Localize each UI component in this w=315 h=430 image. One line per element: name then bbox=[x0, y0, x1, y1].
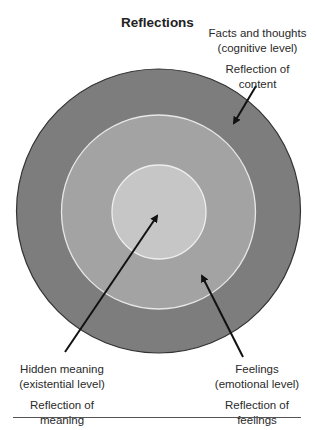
label-outer-line1: Facts and thoughts bbox=[200, 26, 315, 41]
inner-circle-existential bbox=[112, 165, 206, 259]
label-middle-line2: (emotional level) bbox=[199, 377, 315, 392]
label-inner-line1: Hidden meaning bbox=[6, 362, 118, 377]
label-inner-reflection2: meaning bbox=[6, 413, 118, 428]
label-inner-reflection1: Reflection of bbox=[6, 398, 118, 413]
label-inner-line2: (existential level) bbox=[6, 377, 118, 392]
label-outer-reflection2: content bbox=[200, 77, 315, 92]
label-outer-cognitive: Facts and thoughts (cognitive level) Ref… bbox=[200, 26, 315, 92]
bottom-rule bbox=[13, 417, 301, 418]
label-middle-reflection1: Reflection of bbox=[199, 398, 315, 413]
label-middle-line1: Feelings bbox=[199, 362, 315, 377]
label-middle-reflection2: feelings bbox=[199, 413, 315, 428]
label-middle-emotional: Feelings (emotional level) Reflection of… bbox=[199, 362, 315, 428]
label-outer-reflection1: Reflection of bbox=[200, 62, 315, 77]
label-inner-existential: Hidden meaning (existential level) Refle… bbox=[6, 362, 118, 428]
label-outer-line2: (cognitive level) bbox=[200, 41, 315, 56]
